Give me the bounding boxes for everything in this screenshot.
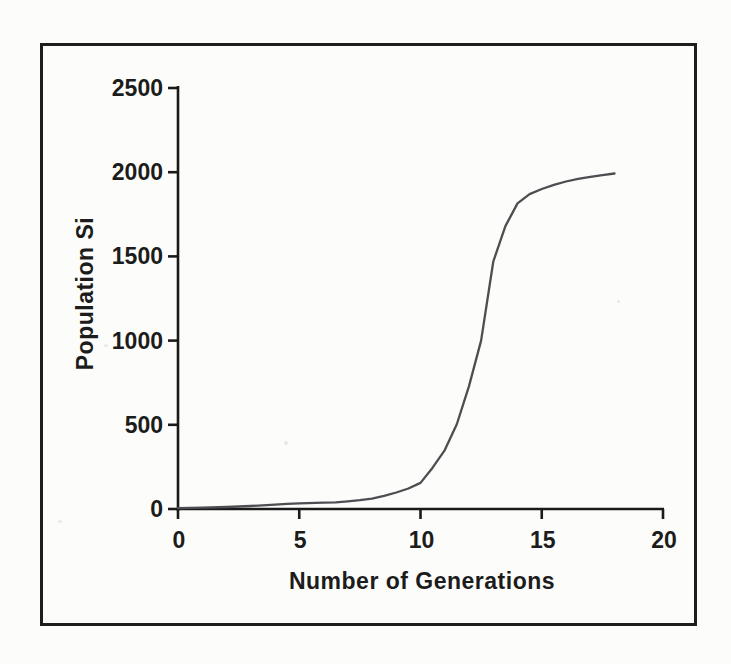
y-axis-tick-label: 0 bbox=[150, 496, 163, 522]
x-axis-title: Number of Generations bbox=[122, 568, 722, 595]
x-axis-tick-label: 5 bbox=[294, 527, 307, 553]
y-axis-tick-label: 1000 bbox=[112, 328, 163, 354]
scan-speck bbox=[284, 441, 288, 445]
y-axis-tick-label: 500 bbox=[125, 412, 163, 438]
x-axis-tick-label: 0 bbox=[173, 527, 186, 553]
y-axis-tick-label: 1500 bbox=[112, 243, 163, 269]
chart-canvas: 0500100015002000250005101520 bbox=[0, 0, 731, 664]
scan-speck bbox=[617, 300, 620, 303]
y-axis-title: Population Si bbox=[72, 144, 99, 444]
scanned-page: 0500100015002000250005101520 Population … bbox=[0, 0, 731, 664]
scan-speck bbox=[104, 344, 108, 347]
population-curve bbox=[178, 174, 615, 509]
x-axis-tick-label: 10 bbox=[409, 527, 435, 553]
y-axis-tick-label: 2000 bbox=[112, 159, 163, 185]
x-axis-tick-label: 15 bbox=[530, 527, 556, 553]
scan-speck bbox=[58, 520, 62, 523]
y-axis-tick-label: 2500 bbox=[112, 75, 163, 101]
x-axis-tick-label: 20 bbox=[651, 527, 677, 553]
